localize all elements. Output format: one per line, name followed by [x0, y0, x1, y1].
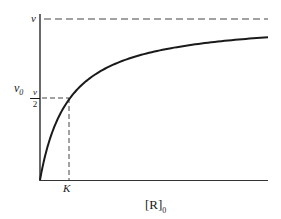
y-axis-label: v0: [14, 82, 23, 97]
y-tick-label-half-v: v 2: [30, 88, 40, 109]
y-tick-label-v: v: [31, 13, 36, 24]
x-axis-label: [R]0: [145, 198, 166, 215]
saturation-curve: [40, 37, 268, 180]
saturation-chart: [0, 0, 281, 219]
x-tick-label-k: K: [63, 183, 70, 194]
